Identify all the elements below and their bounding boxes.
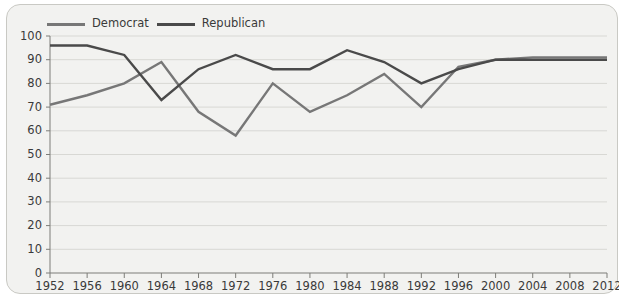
series-line-republican	[50, 45, 607, 100]
data-series	[50, 45, 607, 135]
y-tick-label: 70	[27, 100, 42, 114]
line-chart-svg: 0102030405060708090100 19521956196019641…	[7, 5, 619, 295]
x-tick-label: 1956	[72, 279, 101, 293]
x-tick-label: 1992	[407, 279, 436, 293]
x-tick-label: 2004	[518, 279, 547, 293]
plot-area: 0102030405060708090100 19521956196019641…	[7, 5, 619, 295]
y-tick-label: 60	[27, 123, 42, 137]
x-tick-label: 2008	[555, 279, 584, 293]
chart-frame: Democrat Republican 01020304050607080901…	[6, 4, 618, 294]
y-tick-label: 40	[27, 171, 42, 185]
y-tick-label: 100	[20, 29, 42, 43]
y-tick-label: 90	[27, 52, 42, 66]
y-axis-tick-marks	[46, 36, 50, 273]
x-tick-label: 1968	[184, 279, 213, 293]
y-tick-label: 10	[27, 242, 42, 256]
series-line-democrat	[50, 57, 607, 135]
x-tick-label: 1988	[370, 279, 399, 293]
x-tick-label: 1972	[221, 279, 250, 293]
x-tick-label: 1980	[295, 279, 324, 293]
x-tick-label: 2012	[592, 279, 619, 293]
x-tick-label: 1960	[110, 279, 139, 293]
x-tick-label: 1964	[147, 279, 176, 293]
x-tick-label: 1996	[444, 279, 473, 293]
y-tick-label: 50	[27, 147, 42, 161]
y-tick-label: 20	[27, 218, 42, 232]
y-tick-label: 80	[27, 76, 42, 90]
y-tick-label: 0	[35, 266, 42, 280]
y-tick-label: 30	[27, 194, 42, 208]
x-tick-label: 1976	[258, 279, 287, 293]
x-tick-label: 2000	[481, 279, 510, 293]
x-tick-label: 1952	[35, 279, 64, 293]
y-axis-tick-labels: 0102030405060708090100	[20, 29, 42, 280]
x-axis-tick-labels: 1952195619601964196819721976198019841988…	[35, 279, 619, 293]
x-axis-tick-marks	[50, 273, 607, 278]
x-tick-label: 1984	[332, 279, 361, 293]
